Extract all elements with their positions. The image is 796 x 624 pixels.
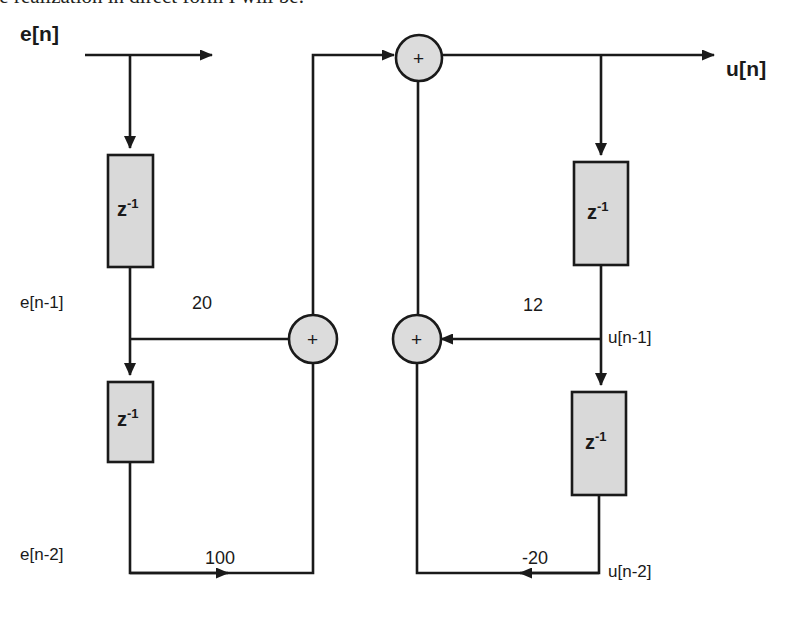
label-adder-top-plus: + xyxy=(413,49,424,68)
label-output-un: u[n] xyxy=(726,57,766,81)
label-gain-12: 12 xyxy=(523,295,543,316)
label-gain-20: 20 xyxy=(192,293,212,314)
label-delay-4: z-1 xyxy=(585,431,607,454)
delay-1-exponent: -1 xyxy=(127,196,139,211)
signal-flow-diagram xyxy=(0,0,796,624)
wire-left-adder-to-top-adder xyxy=(313,55,394,315)
label-tap-u-n-1: u[n-1] xyxy=(608,328,651,348)
label-tap-e-n-2: e[n-2] xyxy=(20,545,63,565)
label-tap-u-n-2: u[n-2] xyxy=(608,562,651,582)
label-delay-1: z-1 xyxy=(117,198,139,221)
label-delay-2: z-1 xyxy=(117,408,139,431)
delay-1-base: z xyxy=(117,198,127,220)
label-gain-100: 100 xyxy=(205,548,235,569)
delay-3-exponent: -1 xyxy=(597,199,609,214)
label-tap-e-n-1: e[n-1] xyxy=(20,293,63,313)
label-input-en: e[n] xyxy=(20,22,59,46)
delay-4-exponent: -1 xyxy=(595,429,607,444)
diagram-page: The realization in direct form I will be… xyxy=(0,0,796,624)
label-adder-left-plus: + xyxy=(307,330,318,349)
delay-2-exponent: -1 xyxy=(127,406,139,421)
delay-3-base: z xyxy=(587,201,597,223)
wire-gain-100 xyxy=(130,362,313,573)
delay-2-base: z xyxy=(117,408,127,430)
label-adder-right-plus: + xyxy=(411,330,422,349)
label-gain-minus-20: -20 xyxy=(522,548,548,569)
label-delay-3: z-1 xyxy=(587,201,609,224)
delay-4-base: z xyxy=(585,431,595,453)
